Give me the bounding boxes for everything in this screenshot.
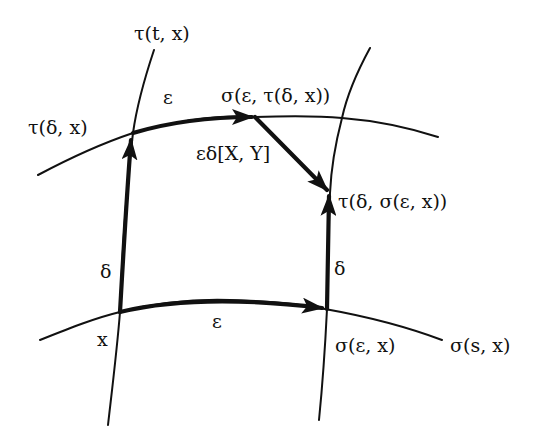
delta-arrow-right xyxy=(327,196,329,309)
label-x: x xyxy=(97,328,108,350)
label-tau-delta-sigma-eps-x: τ(δ, σ(ε, x)) xyxy=(338,190,447,212)
label-tau-delta-x: τ(δ, x) xyxy=(28,116,88,138)
label-sigma-s-x: σ(s, x) xyxy=(450,334,510,356)
flow-commutator-diagram: τ(t, x) τ(δ, x) ε σ(ε, τ(δ, x)) εδ[X, Y]… xyxy=(0,0,538,447)
label-sigma-eps-tau-delta-x: σ(ε, τ(δ, x)) xyxy=(221,84,330,106)
epsilon-arrow-top xyxy=(133,117,252,133)
label-delta-right: δ xyxy=(334,257,345,279)
label-bracket-xy: εδ[X, Y] xyxy=(196,142,270,164)
label-sigma-eps-x: σ(ε, x) xyxy=(335,334,395,356)
label-delta-left: δ xyxy=(100,260,111,282)
label-epsilon-top: ε xyxy=(163,86,173,108)
label-epsilon-bottom: ε xyxy=(212,310,222,332)
tau-curve-left xyxy=(108,50,154,425)
label-tau-t-x: τ(t, x) xyxy=(134,22,190,44)
delta-arrow-left xyxy=(120,140,131,312)
